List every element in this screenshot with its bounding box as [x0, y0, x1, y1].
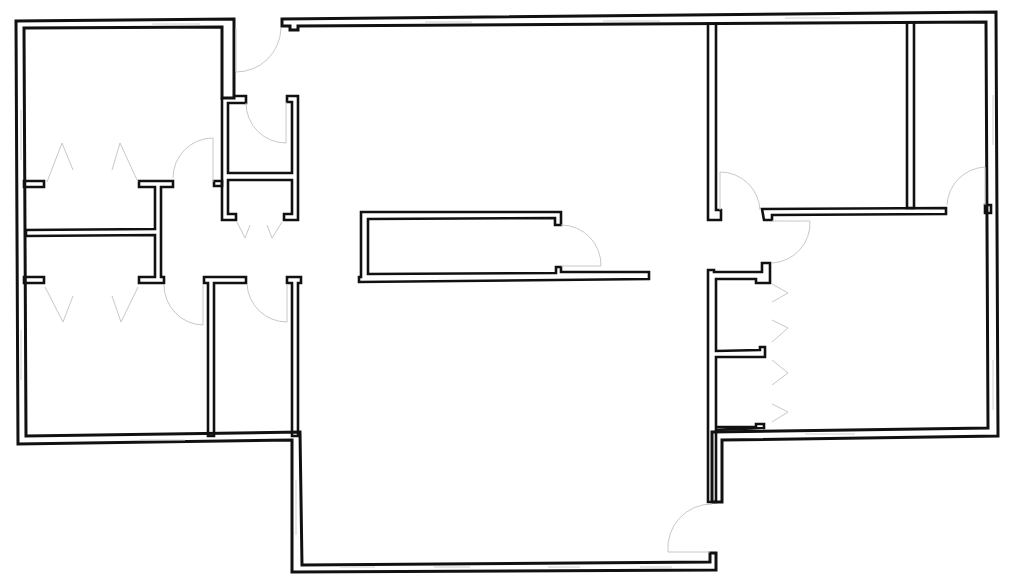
door-top-right-a: [720, 172, 760, 210]
windows: [21, 18, 993, 567]
door-entry-top: [236, 28, 281, 72]
door-room-top-left: [173, 138, 213, 182]
wall-closet-stub-lower-left: [24, 277, 44, 283]
wall-hall-right-upper: [708, 22, 721, 220]
left-interior-walls: [24, 96, 301, 436]
door-closet-right-3: [772, 360, 788, 385]
door-room-bottom-center: [247, 284, 287, 322]
door-center-island: [561, 225, 601, 266]
wall-hall-left-jamb: [287, 277, 301, 436]
door-bottom-exit: [668, 504, 712, 552]
wall-bath-block: [222, 96, 298, 220]
wall-top-right-rooms-bottom: [762, 208, 946, 220]
door-closet-right-1: [772, 284, 788, 302]
doors: [45, 28, 985, 552]
wall-top-outer: [282, 12, 998, 502]
door-closet-right-2: [772, 320, 788, 342]
wall-top-right-divider: [907, 22, 914, 208]
door-closet-left-2: [112, 143, 138, 182]
door-bath-upper: [246, 102, 286, 143]
door-closet-left-3: [45, 287, 73, 322]
wall-bath-jamb: [214, 181, 222, 186]
wall-center-island: [359, 212, 649, 282]
wall-closet-stub-upper-left: [24, 181, 44, 187]
door-closet-left-4: [112, 287, 138, 322]
door-closet-center-1: [237, 222, 250, 238]
wall-left-outer: [16, 19, 716, 572]
door-room-bottom-left: [164, 284, 203, 325]
door-top-right-b: [947, 167, 985, 205]
door-closet-center-2: [267, 222, 282, 238]
wall-right-closets: [708, 263, 770, 502]
wall-room-bottom-center-left: [204, 277, 246, 436]
wall-closet-divider: [26, 181, 173, 283]
floor-plan: [0, 0, 1010, 585]
center-island-walls: [359, 212, 649, 282]
door-closet-left-1: [47, 143, 73, 182]
door-closet-right-4: [772, 404, 788, 422]
exterior-walls: [16, 12, 998, 572]
door-right-large: [772, 221, 810, 263]
